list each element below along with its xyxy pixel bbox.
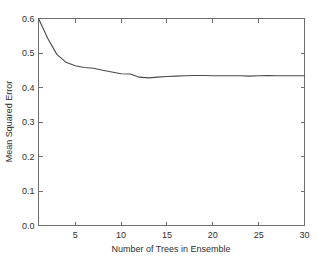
y-axis-ticks — [39, 19, 305, 226]
x-tick-label: 25 — [254, 230, 264, 240]
y-tick-label: 0.1 — [22, 186, 35, 196]
data-series-line — [39, 19, 305, 78]
chart-figure: 51015202530 0.00.10.20.30.40.50.6 Number… — [0, 0, 318, 264]
x-axis-title: Number of Trees in Ensemble — [111, 244, 230, 254]
y-tick-label: 0.4 — [22, 83, 35, 93]
plot-frame — [39, 19, 305, 226]
y-axis-title: Mean Squared Error — [4, 81, 14, 163]
y-tick-label: 0.0 — [22, 221, 35, 231]
line-chart-canvas: 51015202530 0.00.10.20.30.40.50.6 Number… — [0, 0, 318, 264]
y-tick-label: 0.3 — [22, 117, 35, 127]
x-axis-ticks — [75, 19, 304, 226]
x-tick-label: 10 — [116, 230, 126, 240]
x-axis-tick-labels: 51015202530 — [73, 230, 310, 240]
y-tick-label: 0.6 — [22, 14, 35, 24]
y-tick-label: 0.2 — [22, 152, 35, 162]
x-tick-label: 30 — [299, 230, 309, 240]
x-tick-label: 5 — [73, 230, 78, 240]
x-tick-label: 15 — [162, 230, 172, 240]
x-tick-label: 20 — [208, 230, 218, 240]
y-axis-tick-labels: 0.00.10.20.30.40.50.6 — [22, 14, 35, 231]
y-tick-label: 0.5 — [22, 48, 35, 58]
